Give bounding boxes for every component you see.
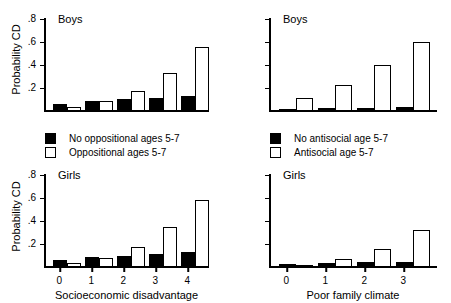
- legend-label: No antisocial age 5-7: [294, 133, 388, 144]
- y-tick: .4: [40, 221, 45, 223]
- y-tick-label: .4: [28, 216, 36, 226]
- y-tick-label: .4: [28, 60, 36, 70]
- y-tick: .2: [40, 88, 45, 90]
- bar-filled: [357, 262, 374, 267]
- y-tick: .4: [40, 65, 45, 67]
- bar-filled: [318, 108, 335, 111]
- bar-filled: [149, 98, 163, 111]
- bar-filled: [318, 263, 335, 267]
- y-tick: [265, 221, 270, 223]
- legend-swatch-filled-icon: [45, 133, 56, 144]
- x-tick: 2: [123, 267, 125, 272]
- bar-open: [296, 265, 313, 267]
- bar-filled: [396, 262, 413, 267]
- bar-open: [296, 98, 313, 111]
- bar-open: [413, 230, 430, 268]
- y-tick: [265, 42, 270, 44]
- panel-boys-family-climate: Boys: [225, 6, 451, 126]
- plot-area-girls-socioeconomic: .2 .4 .6 .8 0 1 2 3: [44, 174, 209, 268]
- panel-girls-family-climate: Girls 0 1 2 3: [225, 166, 451, 303]
- x-tick: 1: [325, 267, 327, 272]
- legend-row: No antisocial age 5-7: [270, 133, 450, 145]
- bar-open: [99, 258, 113, 267]
- y-tick: .8: [40, 175, 45, 177]
- bar-open: [195, 47, 209, 111]
- x-tick: 0: [59, 267, 61, 272]
- bar-filled: [117, 256, 131, 267]
- bar-open: [163, 73, 177, 112]
- y-tick-label: .6: [28, 37, 36, 47]
- bar-open: [374, 65, 391, 112]
- x-tick-label: 4: [184, 276, 190, 286]
- y-tick: .2: [40, 244, 45, 246]
- x-tick: 2: [364, 267, 366, 272]
- bar-filled: [181, 96, 195, 111]
- y-tick-label: .8: [28, 170, 36, 180]
- bar-filled: [149, 254, 163, 267]
- bar-filled: [357, 108, 374, 111]
- x-tick: 1: [91, 267, 93, 272]
- legend-row: Antisocial age 5-7: [270, 147, 450, 159]
- y-tick-label: .2: [28, 239, 36, 249]
- bar-filled: [181, 252, 195, 268]
- bar-filled: [85, 101, 99, 111]
- plot-area-boys-family-climate: [269, 18, 437, 112]
- y-axis-title-bottom-left: Probability CD: [11, 172, 22, 262]
- y-tick: .8: [40, 19, 45, 21]
- legend-swatch-filled-icon: [270, 133, 281, 144]
- y-tick: .6: [40, 42, 45, 44]
- bar-filled: [279, 264, 296, 267]
- y-tick: [265, 244, 270, 246]
- bar-filled: [279, 109, 296, 111]
- bar-open: [335, 85, 352, 111]
- legend-swatch-open-icon: [45, 147, 56, 158]
- x-tick-label: 2: [361, 276, 367, 286]
- bar-open: [413, 42, 430, 112]
- bar-open: [195, 200, 209, 268]
- x-tick: 0: [286, 267, 288, 272]
- plot-area-boys-socioeconomic: .2 .4 .6 .8: [44, 18, 209, 112]
- y-tick: [265, 88, 270, 90]
- bar-filled: [53, 104, 67, 111]
- bar-open: [67, 263, 81, 267]
- bar-open: [131, 247, 145, 267]
- y-axis-title-top-left: Probability CD: [11, 15, 22, 105]
- y-tick: [265, 175, 270, 177]
- x-tick-label: 3: [400, 276, 406, 286]
- x-tick-label: 2: [120, 276, 126, 286]
- y-tick: [265, 19, 270, 21]
- bar-open: [131, 91, 145, 111]
- x-axis-title-socioeconomic: Socioeconomic disadvantage: [44, 290, 209, 301]
- x-tick: 3: [403, 267, 405, 272]
- y-tick-label: .8: [28, 14, 36, 24]
- bar-open: [99, 101, 113, 111]
- legend-swatch-open-icon: [270, 147, 281, 158]
- legend-label: No oppositional ages 5-7: [69, 133, 180, 144]
- x-tick-label: 3: [152, 276, 158, 286]
- bar-open: [374, 249, 391, 268]
- plot-area-girls-family-climate: 0 1 2 3: [269, 174, 437, 268]
- x-axis-title-family-climate: Poor family climate: [269, 290, 437, 301]
- x-tick-label: 1: [322, 276, 328, 286]
- legend-left: No oppositional ages 5-7 Oppositional ag…: [45, 133, 225, 161]
- y-tick-label: .6: [28, 193, 36, 203]
- y-tick: [265, 65, 270, 67]
- bar-open: [163, 227, 177, 267]
- panel-boys-socioeconomic: Probability CD Boys .2 .4 .6 .8: [0, 6, 225, 126]
- x-tick-label: 0: [56, 276, 62, 286]
- bar-filled: [396, 107, 413, 111]
- bar-filled: [53, 260, 67, 267]
- x-tick-label: 1: [88, 276, 94, 286]
- y-tick-label: .2: [28, 83, 36, 93]
- legend-label: Oppositional ages 5-7: [69, 147, 166, 158]
- legend-row: No oppositional ages 5-7: [45, 133, 225, 145]
- x-tick: 4: [187, 267, 189, 272]
- legend-label: Antisocial age 5-7: [294, 147, 374, 158]
- bar-open: [335, 259, 352, 267]
- x-tick-label: 0: [283, 276, 289, 286]
- bar-filled: [117, 99, 131, 111]
- y-tick: .6: [40, 198, 45, 200]
- figure-probability-cd: Probability CD Boys .2 .4 .6 .8: [0, 0, 451, 303]
- legend-row: Oppositional ages 5-7: [45, 147, 225, 159]
- bar-open: [67, 107, 81, 112]
